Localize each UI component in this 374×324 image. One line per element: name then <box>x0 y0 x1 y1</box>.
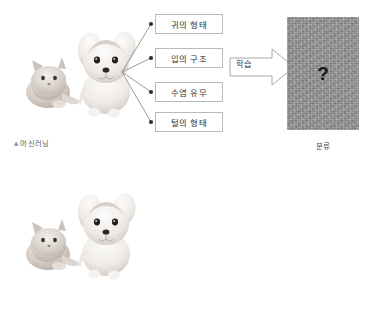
result-caption: 분류 <box>287 140 359 151</box>
feature-dot <box>149 90 153 94</box>
feature-fan-lines <box>118 10 158 132</box>
deep-learning-section: ▲딥러닝 학습 ? 분류 <box>0 162 374 324</box>
question-mark-symbol: ? <box>317 64 329 83</box>
feature-label: 수염 유무 <box>171 86 207 98</box>
caption-label: 머신러닝 <box>20 139 49 148</box>
feature-box: 수염 유무 <box>155 82 223 102</box>
cat-and-dog-photo-dl <box>18 176 142 282</box>
feature-label: 입의 구조 <box>171 52 207 64</box>
feature-label: 털의 형태 <box>171 116 207 128</box>
kitten-figure <box>26 57 80 108</box>
arrow-label-training: 학습 <box>236 57 253 69</box>
feature-dot <box>149 56 153 60</box>
caption-machine-learning: ▲머신러닝 <box>14 138 49 148</box>
feature-box: 털의 형태 <box>155 112 223 132</box>
machine-learning-section: ▲머신러닝 귀의 형태 입의 구조 수염 유무 털의 형태 <box>0 0 374 162</box>
feature-dot <box>149 120 153 124</box>
feature-dot <box>149 22 153 26</box>
classification-result-panel: ? <box>287 17 359 130</box>
feature-label: 귀의 형태 <box>171 18 207 30</box>
kitten-figure <box>26 219 80 270</box>
feature-box: 입의 구조 <box>155 48 223 68</box>
caption-marker-icon: ▲ <box>14 140 18 146</box>
feature-box: 귀의 형태 <box>155 14 223 34</box>
dog-figure <box>78 194 136 280</box>
